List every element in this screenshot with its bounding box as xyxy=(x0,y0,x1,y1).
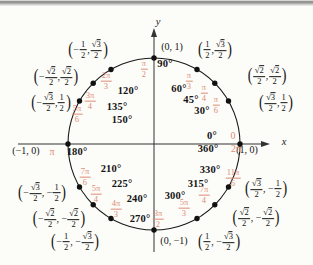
fraction-numerator: √3 xyxy=(81,231,93,243)
fraction: √32 xyxy=(42,92,54,114)
fraction-denominator: 6 xyxy=(214,106,218,116)
fraction-numerator: √2 xyxy=(262,207,274,219)
radicand: 2 xyxy=(268,207,272,217)
coordinate-label-120: (−12, √32) xyxy=(68,39,109,61)
fraction-denominator: 3 xyxy=(114,210,118,220)
radian-label-225: 5π4 xyxy=(90,184,103,205)
parenthesis: ( xyxy=(248,67,253,85)
coordinate-label-45: (√22, √22) xyxy=(247,65,287,87)
degree-label-135: 135° xyxy=(107,102,128,113)
fraction: √32 xyxy=(222,231,234,253)
degree-label-360: 360° xyxy=(198,144,219,155)
radian-label-180: π xyxy=(49,147,54,157)
radian-label-30: π6 xyxy=(212,95,220,116)
fraction-numerator: 1 xyxy=(53,183,60,194)
text-token: , − xyxy=(211,237,222,247)
fraction-denominator: 2 xyxy=(257,77,261,87)
fraction: √22 xyxy=(238,207,250,229)
fraction-numerator: 1 xyxy=(204,40,211,51)
fraction: 12 xyxy=(274,179,281,200)
fraction-denominator: 2 xyxy=(64,78,68,88)
fraction-denominator: 2 xyxy=(59,104,63,114)
radian-label-150: 5π6 xyxy=(71,104,84,125)
fraction-denominator: 4 xyxy=(88,102,92,112)
fraction: 12 xyxy=(204,232,211,253)
fraction-denominator: 2 xyxy=(242,219,246,229)
coordinate-label-240: (−12, −√32) xyxy=(51,231,100,253)
text-token: (−1, 0) xyxy=(12,146,39,156)
fraction-numerator: 1 xyxy=(280,93,287,104)
fraction-denominator: 4 xyxy=(202,196,206,206)
radicand: 2 xyxy=(260,65,264,75)
text-token: − xyxy=(36,98,42,108)
fraction: 3π2 xyxy=(152,209,164,230)
parenthesis: ( xyxy=(34,68,39,86)
fraction: 12 xyxy=(58,93,65,114)
fraction-numerator: √3 xyxy=(222,231,234,243)
radicand: 3 xyxy=(87,231,91,241)
fraction-numerator: √3 xyxy=(214,39,226,51)
fraction: √22 xyxy=(253,65,265,87)
fraction: √32 xyxy=(90,39,102,61)
text-token: π xyxy=(49,147,54,157)
radian-label-315: 7π4 xyxy=(198,185,211,206)
fraction: √22 xyxy=(262,207,274,229)
fraction-denominator: 2 xyxy=(94,51,98,61)
radian-label-60: π3 xyxy=(185,71,193,92)
fraction-numerator: √3 xyxy=(90,39,102,51)
fraction: √32 xyxy=(214,39,226,61)
fraction-numerator: 5π xyxy=(71,104,83,115)
fraction: √22 xyxy=(45,66,57,88)
radicand: 3 xyxy=(257,178,261,188)
text-token: 2π xyxy=(231,144,241,154)
point-dot-90 xyxy=(151,55,156,60)
coordinate-label-330: (√32, −12) xyxy=(244,178,287,200)
parenthesis: ( xyxy=(245,180,250,198)
fraction-numerator: √2 xyxy=(68,208,80,220)
radicand: 2 xyxy=(51,66,55,76)
text-token: , − xyxy=(42,188,53,198)
coordinate-label-30: (√32, 12) xyxy=(258,92,293,114)
fraction: 5π6 xyxy=(71,104,83,125)
text-token: , − xyxy=(251,213,262,223)
coordinate-label-60: (12, √32) xyxy=(197,39,232,61)
fraction: π6 xyxy=(212,95,219,116)
parenthesis: ) xyxy=(227,41,232,59)
fraction-denominator: 2 xyxy=(85,243,89,253)
degree-label-120: 120° xyxy=(118,86,139,97)
x-axis-label: x xyxy=(282,136,287,147)
text-token: , − xyxy=(263,184,274,194)
fraction: 7π4 xyxy=(198,185,210,206)
y-axis-label: y xyxy=(156,16,161,27)
fraction-denominator: 2 xyxy=(81,51,85,61)
degree-label-270: 270° xyxy=(130,214,151,225)
fraction-denominator: 2 xyxy=(48,220,52,230)
fraction: √32 xyxy=(29,182,41,204)
fraction-numerator: 11π xyxy=(225,168,240,179)
fraction-numerator: √2 xyxy=(269,65,281,77)
fraction-denominator: 2 xyxy=(273,77,277,87)
fraction: √32 xyxy=(81,231,93,253)
fraction-numerator: 3π xyxy=(84,91,96,102)
coordinate-label-90: (0, 1) xyxy=(161,42,183,52)
radicand: 3 xyxy=(96,39,100,49)
parenthesis: ( xyxy=(18,184,23,202)
fraction-denominator: 3 xyxy=(187,82,191,92)
radicand: 3 xyxy=(221,39,225,49)
text-token: − xyxy=(56,237,62,247)
parenthesis: ) xyxy=(235,233,240,251)
radicand: 3 xyxy=(271,92,275,102)
fraction-numerator: √2 xyxy=(44,208,56,220)
fraction: 2π3 xyxy=(100,71,112,92)
fraction-denominator: 2 xyxy=(156,220,160,230)
fraction-denominator: 6 xyxy=(75,115,79,125)
parenthesis: ( xyxy=(31,94,36,112)
fraction-denominator: 2 xyxy=(142,70,146,80)
degree-label-45: 45° xyxy=(183,95,198,106)
fraction: √22 xyxy=(269,65,281,87)
radicand: 2 xyxy=(244,207,248,217)
fraction: √32 xyxy=(251,178,263,200)
fraction-numerator: √2 xyxy=(61,66,73,78)
fraction-denominator: 3 xyxy=(182,209,186,219)
coordinate-label-180: (−1, 0) xyxy=(12,146,39,156)
